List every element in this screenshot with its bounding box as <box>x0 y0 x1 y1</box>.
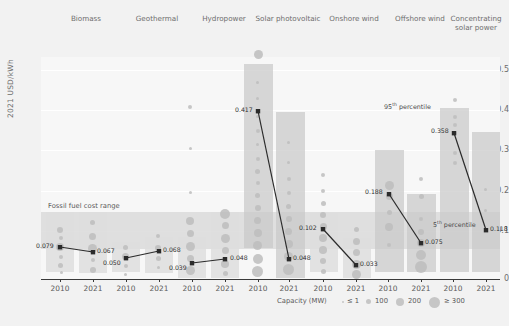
x-tick-label: 2021 <box>404 284 438 293</box>
x-tick-label: 2021 <box>339 284 373 293</box>
x-tick-label: 2021 <box>142 284 176 293</box>
category-label: Geothermal <box>136 14 178 23</box>
x-tick-mark <box>192 279 193 282</box>
value-label-offshore-wind-2010: 0.188 <box>365 189 383 195</box>
trend-segment-offshore-wind <box>389 194 421 243</box>
value-label-geothermal-2021: 0.068 <box>163 247 181 253</box>
x-tick-label: 2021 <box>76 284 110 293</box>
x-axis-line <box>41 279 500 280</box>
category-label: Concentrating solar power <box>450 14 501 32</box>
category-label: Hydropower <box>202 14 246 23</box>
category-header-biomass: Biomass <box>50 14 122 23</box>
x-tick-label: 2021 <box>469 284 503 293</box>
x-tick-label: 2010 <box>306 284 340 293</box>
x-tick-mark <box>388 279 389 282</box>
x-tick-mark <box>60 279 61 282</box>
legend-label-100: 100 <box>375 297 388 305</box>
annotation-fossil-fuel-cost-range: Fossil fuel cost range <box>48 202 120 210</box>
plot-area: 0.079 0.067 0.050 0.068 0.039 0.048 0.41… <box>41 57 500 279</box>
x-tick-label: 2021 <box>272 284 306 293</box>
trend-lines <box>41 57 500 279</box>
value-label-biomass-2010: 0.079 <box>36 243 54 249</box>
value-label-solar-pv-2021: 0.048 <box>293 255 311 261</box>
x-tick-label: 2010 <box>109 284 143 293</box>
trend-segment-solar-pv <box>258 111 289 259</box>
legend-dot-100 <box>366 299 371 304</box>
x-tick-mark <box>421 279 422 282</box>
value-label-hydropower-2010: 0.039 <box>169 265 187 271</box>
category-label: Solar photovoltaic <box>255 14 320 23</box>
legend-dot-200 <box>396 298 404 306</box>
trend-segment-onshore-wind <box>323 229 356 265</box>
value-label-offshore-wind-2021: 0.075 <box>425 239 443 245</box>
y-axis-title: 2021 USD/kWh <box>6 59 15 118</box>
value-label-csp-2010: 0.358 <box>431 128 449 134</box>
x-tick-label: 2021 <box>208 284 242 293</box>
x-tick-mark <box>289 279 290 282</box>
trend-segment-csp <box>454 133 486 230</box>
category-header-onshore-wind: Onshore wind <box>318 14 390 23</box>
x-tick-mark <box>93 279 94 282</box>
x-tick-mark <box>356 279 357 282</box>
value-label-csp-2021: 0.118 <box>490 226 508 232</box>
legend-label-le-1: ≤ 1 <box>347 297 359 305</box>
value-label-onshore-wind-2010: 0.102 <box>299 225 317 231</box>
category-header-solar-photovoltaic: Solar photovoltaic <box>252 14 324 23</box>
x-tick-mark <box>453 279 454 282</box>
annotation-5th-percentile: 5th percentile <box>433 220 476 229</box>
annotation-95th-percentile: 95th percentile <box>384 102 431 111</box>
category-label: Onshore wind <box>329 14 378 23</box>
legend-title: Capacity (MW) <box>277 297 327 305</box>
x-tick-mark <box>258 279 259 282</box>
trend-segment-geothermal <box>126 251 159 258</box>
x-tick-label: 2010 <box>371 284 405 293</box>
x-tick-label: 2010 <box>175 284 209 293</box>
category-label: Biomass <box>71 14 101 23</box>
trend-segment-hydropower <box>192 259 225 263</box>
value-label-geothermal-2010: 0.050 <box>103 260 121 266</box>
legend-label-ge-300: ≥ 300 <box>444 297 465 305</box>
legend-dot-ge-300 <box>429 297 440 308</box>
value-label-onshore-wind-2021: 0.033 <box>360 261 378 267</box>
legend-label-200: 200 <box>408 297 421 305</box>
value-label-biomass-2021: 0.067 <box>97 248 115 254</box>
category-header-hydropower: Hydropower <box>188 14 260 23</box>
x-tick-mark <box>225 279 226 282</box>
x-tick-label: 2010 <box>436 284 470 293</box>
value-label-solar-pv-2010: 0.417 <box>235 107 253 113</box>
x-tick-label: 2010 <box>43 284 77 293</box>
category-header-geothermal: Geothermal <box>121 14 193 23</box>
x-tick-label: 2010 <box>241 284 275 293</box>
trend-markers <box>58 109 488 267</box>
value-label-hydropower-2021: 0.048 <box>230 255 248 261</box>
x-tick-mark <box>323 279 324 282</box>
chart-root: Biomass Geothermal Hydropower Solar phot… <box>0 0 509 326</box>
trend-segment-biomass <box>60 247 93 252</box>
category-header-concentrating-solar-power: Concentrating solar power <box>444 14 508 32</box>
x-tick-mark <box>159 279 160 282</box>
category-label: Offshore wind <box>395 14 445 23</box>
x-tick-mark <box>486 279 487 282</box>
x-tick-mark <box>126 279 127 282</box>
legend-dot-le-1 <box>342 301 344 303</box>
